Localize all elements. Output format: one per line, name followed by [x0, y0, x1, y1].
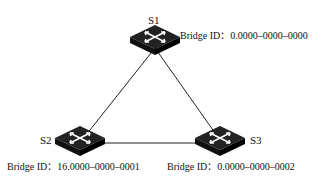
- link-s1-s2: [82, 48, 155, 140]
- switch-label-s2: S2: [40, 134, 52, 146]
- switch-icon: [130, 25, 180, 55]
- bridge-id-label: Bridge ID：: [7, 161, 57, 172]
- bridge-id-label: Bridge ID：: [180, 30, 230, 41]
- bridge-id-value: 16.0000–0000–0001: [57, 161, 140, 172]
- bridge-id-s1: Bridge ID：0.0000–0000–0000: [180, 27, 308, 42]
- bridge-id-label: Bridge ID：: [167, 161, 217, 172]
- bridge-id-s3: Bridge ID：0.0000–0000–0002: [167, 158, 295, 173]
- switch-icon: [55, 126, 105, 156]
- switch-label-s1: S1: [148, 14, 160, 26]
- bridge-id-s2: Bridge ID：16.0000–0000–0001: [7, 158, 140, 173]
- switch-label-s3: S3: [250, 134, 262, 146]
- bridge-id-value: 0.0000–0000–0000: [230, 30, 308, 41]
- link-s1-s3: [155, 48, 220, 140]
- switch-icon: [195, 126, 245, 156]
- bridge-id-value: 0.0000–0000–0002: [217, 161, 295, 172]
